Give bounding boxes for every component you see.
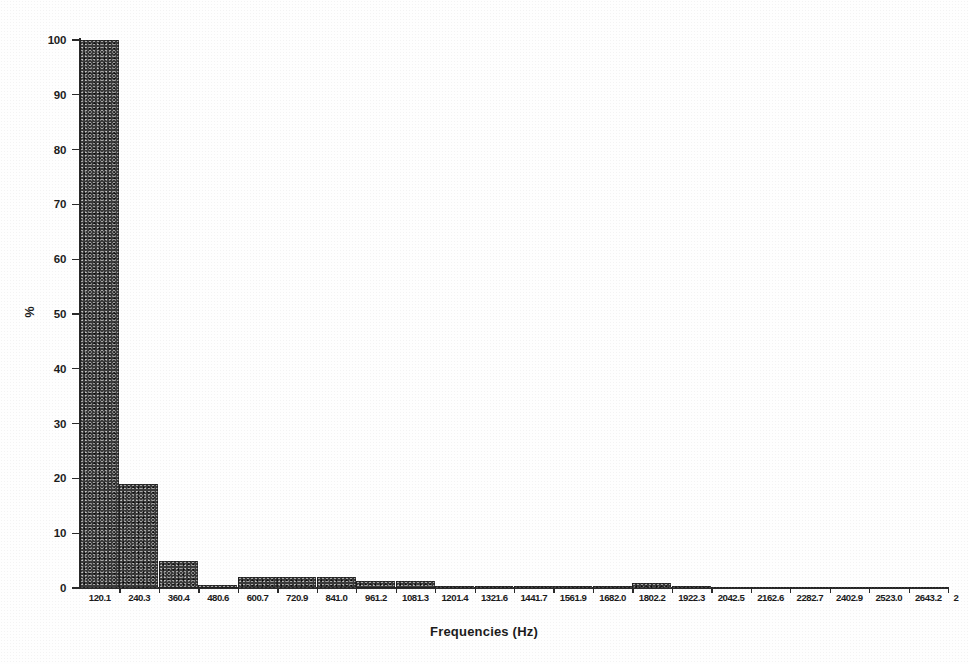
- x-axis-tick-label: 2402.9: [836, 592, 863, 603]
- x-axis-tick: [396, 588, 397, 593]
- y-axis-tick-label: 30: [26, 418, 66, 430]
- x-axis-tick-label: 2523.0: [875, 592, 902, 603]
- x-axis-tick: [238, 588, 239, 593]
- histogram-bar: [475, 586, 514, 588]
- y-axis-tick: [72, 39, 79, 40]
- x-axis-tick-label: 2162.6: [757, 592, 784, 603]
- histogram-bar: [514, 586, 553, 588]
- histogram-bar: [632, 583, 671, 588]
- x-axis-tick: [119, 588, 120, 593]
- x-axis-tick: [159, 588, 160, 593]
- x-axis-tick-label: 240.3: [128, 592, 150, 603]
- x-axis-tick-label: 720.9: [286, 592, 308, 603]
- x-axis-tick: [435, 588, 436, 593]
- x-axis-tick-label: 1201.4: [441, 592, 468, 603]
- x-axis-tick: [672, 588, 673, 593]
- y-axis-tick: [72, 149, 79, 150]
- y-axis-tick-label: 70: [26, 198, 66, 210]
- x-axis-tick: [751, 588, 752, 593]
- y-axis-title: %: [23, 306, 37, 317]
- histogram-bar: [553, 586, 592, 588]
- x-axis-tick: [790, 588, 791, 593]
- y-axis-tick-label: 40: [26, 363, 66, 375]
- y-axis-tick: [72, 587, 79, 588]
- histogram-bar: [435, 586, 474, 588]
- x-axis-tick-label: 2042.5: [718, 592, 745, 603]
- histogram-bar: [711, 587, 750, 588]
- histogram-bar: [198, 585, 237, 588]
- x-axis-tick-label: 1321.6: [481, 592, 508, 603]
- x-axis-tick-label: 480.6: [207, 592, 229, 603]
- x-axis-tick: [553, 588, 554, 593]
- histogram-figure: 0102030405060708090100 120.1240.3360.448…: [0, 0, 968, 664]
- histogram-bar: [159, 561, 198, 588]
- y-axis-tick-label: 90: [26, 89, 66, 101]
- y-axis-tick-label: 100: [26, 34, 66, 46]
- x-axis-tick-label: 120.1: [89, 592, 111, 603]
- histogram-bar: [830, 587, 869, 588]
- y-axis-tick: [72, 204, 79, 205]
- plot-area: [80, 40, 948, 588]
- x-axis-tick-label: 1441.7: [520, 592, 547, 603]
- histogram-bar: [317, 577, 356, 588]
- histogram-bar: [593, 586, 632, 588]
- x-axis-tick: [830, 588, 831, 593]
- histogram-bar: [356, 581, 395, 588]
- y-axis-tick: [72, 259, 79, 260]
- x-axis-tick: [909, 588, 910, 593]
- y-axis-tick-label: 10: [26, 527, 66, 539]
- x-axis-tick-label: 600.7: [247, 592, 269, 603]
- x-axis-tick-label: 1081.3: [402, 592, 429, 603]
- histogram-bar: [396, 581, 435, 588]
- x-axis-tick-label: 1561.9: [560, 592, 587, 603]
- x-axis-tick-label: 360.4: [168, 592, 190, 603]
- histogram-bar: [909, 587, 948, 588]
- x-axis-tick: [277, 588, 278, 593]
- y-axis-tick: [72, 313, 79, 314]
- histogram-bar: [119, 484, 158, 588]
- x-axis-tick: [711, 588, 712, 593]
- x-axis-tick: [632, 588, 633, 593]
- histogram-bar: [238, 577, 277, 588]
- x-axis-title: Frequencies (Hz): [0, 624, 968, 639]
- x-axis-tick-label: 1922.3: [678, 592, 705, 603]
- y-axis-tick-label: 20: [26, 472, 66, 484]
- y-axis-tick: [72, 533, 79, 534]
- x-axis-tick: [198, 588, 199, 593]
- histogram-bar: [751, 587, 790, 588]
- x-axis-tick: [948, 588, 949, 593]
- y-axis-tick-label: 60: [26, 253, 66, 265]
- scanned-page: 0102030405060708090100 120.1240.3360.448…: [0, 0, 968, 664]
- x-axis-tick-label: 961.2: [365, 592, 387, 603]
- histogram-bar: [790, 587, 829, 588]
- histogram-bar: [869, 587, 908, 588]
- x-axis-tick: [869, 588, 870, 593]
- x-axis-tick-label-clipped: 2: [954, 592, 959, 603]
- x-axis-tick-label: 2643.2: [915, 592, 942, 603]
- x-axis-tick: [317, 588, 318, 593]
- histogram-bar: [277, 577, 316, 588]
- x-axis-tick: [514, 588, 515, 593]
- y-axis-tick: [72, 478, 79, 479]
- y-axis-tick-label: 80: [26, 144, 66, 156]
- y-axis-tick: [72, 94, 79, 95]
- y-axis-tick: [72, 368, 79, 369]
- x-axis-tick-label: 1802.2: [639, 592, 666, 603]
- y-axis-tick-label: 0: [26, 582, 66, 594]
- y-axis-tick: [72, 423, 79, 424]
- x-axis-tick: [356, 588, 357, 593]
- histogram-bar: [80, 40, 119, 588]
- x-axis-tick-label: 841.0: [326, 592, 348, 603]
- histogram-bar: [672, 586, 711, 588]
- x-axis-tick-label: 2282.7: [797, 592, 824, 603]
- x-axis-tick: [475, 588, 476, 593]
- x-axis-tick-label: 1682.0: [599, 592, 626, 603]
- x-axis-tick: [593, 588, 594, 593]
